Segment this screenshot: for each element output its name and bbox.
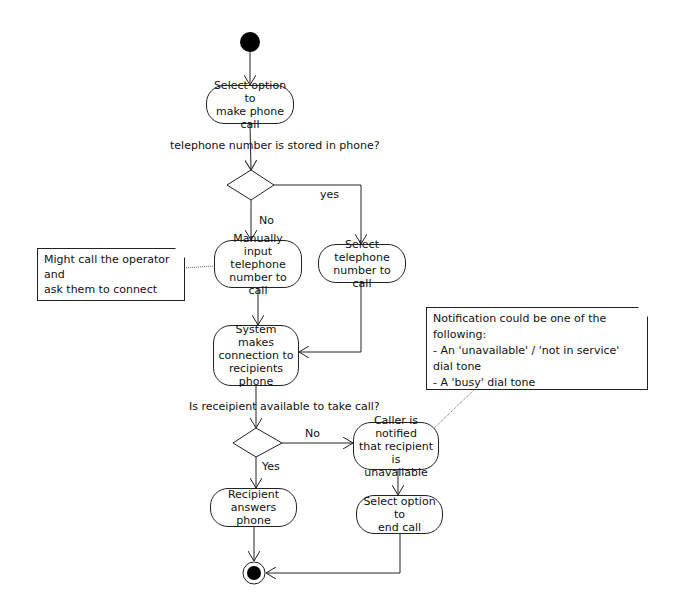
guard-no-stored: No (259, 214, 274, 227)
initial-node (240, 32, 260, 52)
guard-yes-stored: yes (320, 188, 339, 201)
note-operator: Might call the operator and ask them to … (37, 248, 185, 301)
action-select-number: Select telephone number to call (318, 244, 406, 283)
note-notification: Notification could be one of the followi… (426, 307, 648, 390)
action-recipient-answers: Recipient answers phone (210, 488, 297, 527)
action-caller-notified: Caller is notified that recipient is una… (353, 422, 439, 470)
guard-yes-available: Yes (262, 460, 280, 473)
action-manual-input: Manually input telephone number to call (214, 240, 302, 288)
guard-available-question: Is receipient available to take call? (189, 400, 380, 413)
action-select-make-call: Select option to make phone call (206, 85, 294, 124)
decision-recipient-available (233, 428, 282, 457)
decision-stored-number (227, 170, 274, 200)
final-node (243, 562, 265, 584)
action-select-end-call: Select option to end call (356, 495, 443, 534)
guard-stored-question: telephone number is stored in phone? (170, 139, 380, 152)
action-system-connects: System makes connection to recipients ph… (213, 325, 299, 386)
guard-no-available: No (305, 427, 320, 440)
